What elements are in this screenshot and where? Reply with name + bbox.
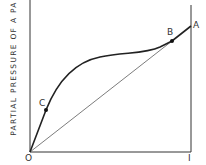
point-b-marker	[170, 39, 174, 43]
point-c-label: C	[39, 98, 45, 108]
point-a-label: A	[193, 20, 199, 30]
origin-label: O	[25, 153, 32, 163]
x-end-label: I	[188, 153, 191, 163]
point-b-label: B	[167, 27, 173, 37]
plot-area	[0, 0, 206, 165]
y-axis-label: PARTIAL PRESSURE OF A PA	[9, 0, 18, 144]
point-c-marker	[44, 108, 48, 112]
ideal-line	[30, 41, 172, 152]
